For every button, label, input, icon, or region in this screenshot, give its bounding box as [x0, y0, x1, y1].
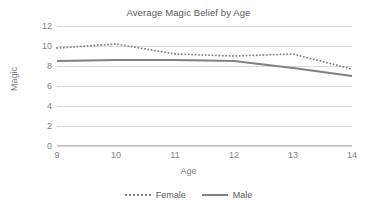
- plot-area: [57, 26, 352, 146]
- y-axis-tick-label: 8: [24, 62, 52, 71]
- x-axis-tick-label: 9: [42, 150, 72, 160]
- x-axis-tick-labels: 91011121314: [57, 150, 352, 164]
- y-axis-tick-label: 12: [24, 22, 52, 31]
- y-axis-tick-label: 6: [24, 82, 52, 91]
- legend-swatch-dotted-icon: [125, 191, 151, 199]
- x-axis-line: [57, 145, 352, 146]
- series-line-male: [57, 60, 352, 76]
- x-axis-tick-label: 12: [219, 150, 249, 160]
- chart-title: Average Magic Belief by Age: [0, 7, 377, 18]
- legend-swatch-solid-icon: [202, 191, 228, 199]
- series-lines: [57, 26, 352, 146]
- legend-label-male: Male: [233, 190, 253, 200]
- x-axis-tick-label: 14: [337, 150, 367, 160]
- chart-legend: Female Male: [0, 190, 377, 200]
- legend-label-female: Female: [156, 190, 186, 200]
- x-axis-tick-label: 11: [160, 150, 190, 160]
- series-line-female: [57, 44, 352, 69]
- legend-item-female[interactable]: Female: [125, 190, 186, 200]
- y-axis-tick-labels: 024681012: [22, 0, 52, 214]
- x-axis-tick-label: 10: [101, 150, 131, 160]
- x-axis-title: Age: [0, 166, 377, 176]
- gridline: [57, 146, 352, 147]
- chart-container: Average Magic Belief by Age 024681012 Ma…: [0, 0, 377, 214]
- x-axis-tick-label: 13: [278, 150, 308, 160]
- y-axis-title: Magic: [9, 53, 19, 105]
- legend-item-male[interactable]: Male: [202, 190, 253, 200]
- y-axis-tick-label: 10: [24, 42, 52, 51]
- y-axis-tick-label: 2: [24, 122, 52, 131]
- y-axis-tick-label: 4: [24, 102, 52, 111]
